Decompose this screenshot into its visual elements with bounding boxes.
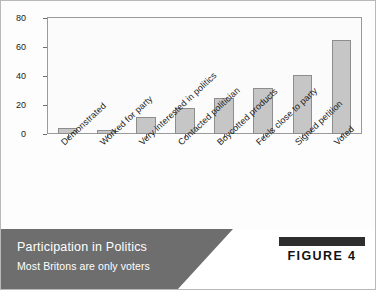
caption-band: Participation in Politics Most Britons a… [1, 229, 375, 289]
caption-subtitle: Most Britons are only voters [17, 260, 150, 272]
y-tick-label-20: 20 [0, 100, 26, 110]
figure-tag-bar [279, 237, 365, 246]
figure-tag: FIGURE 4 [279, 237, 365, 263]
x-axis-labels: DemonstratedWorked for partyVery interes… [1, 1, 375, 96]
y-tick-mark [43, 134, 47, 135]
y-tick-label-0: 0 [0, 129, 26, 139]
figure-tag-label: FIGURE 4 [279, 249, 365, 263]
figure-container: Percentage 020406080 DemonstratedWorked … [0, 0, 376, 290]
caption-background [1, 229, 321, 289]
caption-title: Participation in Politics [17, 240, 147, 254]
chart-panel: Percentage 020406080 DemonstratedWorked … [1, 1, 375, 229]
